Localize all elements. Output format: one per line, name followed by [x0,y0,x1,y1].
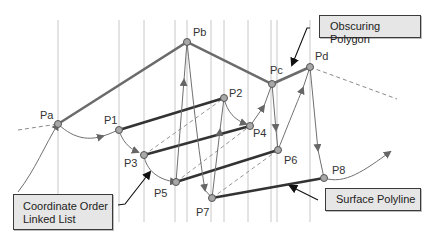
point-p7 [209,195,216,202]
callout-surface-polyline-text: Surface Polyline [336,193,416,205]
point-pd [307,64,314,71]
point-pb [184,39,191,46]
point-p6 [275,147,282,154]
callout-linked-list-line2: Linked List [23,213,112,226]
point-p2 [221,95,228,102]
point-labels: Pa Pb Pc Pd P1 P2 P3 P4 P5 P6 P7 P8 [40,26,345,218]
label-p2: P2 [229,87,242,99]
point-p3 [141,152,148,159]
label-p3: P3 [124,157,137,169]
label-pc: Pc [270,64,283,76]
label-p1: P1 [104,114,117,126]
label-p4: P4 [253,127,266,139]
callout-surface-polyline: Surface Polyline [325,188,421,211]
point-pa [55,121,62,128]
vertical-grid-lines [58,20,310,222]
label-p8: P8 [332,164,345,176]
point-p5 [173,179,180,186]
label-pb: Pb [193,26,206,38]
point-p8 [321,175,328,182]
point-p1 [116,127,123,134]
label-p7: P7 [196,206,209,218]
label-pa: Pa [40,109,54,121]
callout-pointers [118,28,318,205]
label-pd: Pd [315,50,328,62]
callout-coordinate-order-linked-list: Coordinate Order Linked List [13,194,113,230]
label-p5: P5 [154,187,167,199]
polygon-extension-dashes [18,67,397,130]
point-pc [269,81,276,88]
label-p6: P6 [284,154,297,166]
callout-obscuring-polygon: Obscuring Polygon [319,15,421,38]
callout-linked-list-line1: Coordinate Order [23,200,112,213]
